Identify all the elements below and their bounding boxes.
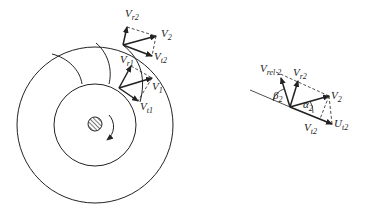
vane-2: [96, 43, 110, 84]
label-vr1: Vr1: [120, 53, 134, 68]
label-vt2: Vt2: [154, 50, 167, 65]
label-vr2-triangle: Vr2: [293, 66, 307, 81]
label-vrel2: Vrel 2: [260, 62, 281, 77]
vane-1: [52, 54, 82, 84]
label-vt2-triangle: Vt2: [304, 121, 317, 136]
hub-shaft: [88, 117, 102, 131]
outlet-velocity-triangle: [250, 72, 332, 124]
rotation-arrow: [107, 115, 114, 140]
label-vt1: Vt1: [140, 100, 153, 115]
label-v1: V1: [152, 80, 163, 95]
impeller-velocity-diagram: Vr2 V2 Vt2 Vr1 V1 Vt1 Vrel 2 Vr2 β2 α2 V…: [0, 0, 366, 215]
outlet-vectors: [123, 27, 156, 56]
label-ut2: Ut2: [334, 117, 348, 132]
label-v2-triangle: V2: [331, 89, 342, 104]
label-vr2: Vr2: [125, 7, 139, 22]
label-v2: V2: [161, 27, 172, 42]
impeller: [17, 43, 173, 203]
